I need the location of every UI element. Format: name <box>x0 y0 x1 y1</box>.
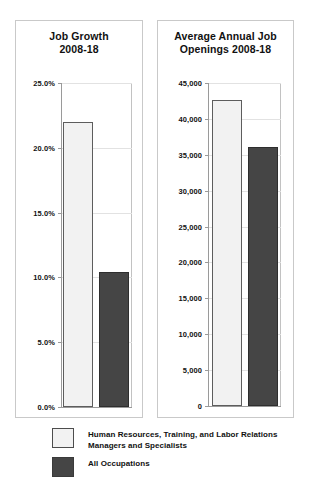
y-axis-tick-label: 25.0% <box>33 79 55 88</box>
chart-title-line1: Average Annual Job <box>174 30 277 42</box>
plot-frame-right <box>280 83 281 406</box>
chart-title-line2: 2008-18 <box>16 43 142 56</box>
legend-swatch-hr-managers <box>52 428 74 448</box>
chart-title-job-openings: Average Annual Job Openings 2008-18 <box>158 30 293 56</box>
y-axis-tick-label: 25,000 <box>178 222 202 231</box>
y-axis-tick <box>205 298 209 299</box>
chart-title-job-growth: Job Growth 2008-18 <box>16 30 142 56</box>
y-axis-tick-label: 20,000 <box>178 258 202 267</box>
y-axis-tick-label: 30,000 <box>178 186 202 195</box>
legend-item: All Occupations <box>52 457 302 477</box>
y-axis-tick <box>58 213 62 214</box>
y-axis-tick <box>205 406 209 407</box>
y-axis-tick-label: 35,000 <box>178 150 202 159</box>
plot-frame-right <box>131 83 132 407</box>
y-axis-tick <box>205 155 209 156</box>
y-axis-tick <box>205 191 209 192</box>
y-axis-tick <box>58 148 62 149</box>
y-axis-tick-label: 45,000 <box>178 79 202 88</box>
bar-all-occupations <box>248 147 278 406</box>
y-axis-tick-label: 20.0% <box>33 143 55 152</box>
chart-title-line1: Job Growth <box>49 30 108 42</box>
plot-area-job-growth: 25.0%20.0%15.0%10.0%5.0%0.0% <box>61 83 132 408</box>
legend-label-line1: All Occupations <box>88 459 150 468</box>
legend-label-all-occupations: All Occupations <box>88 457 150 469</box>
y-axis-tick-label: 0.0% <box>38 403 56 412</box>
y-axis-tick <box>58 342 62 343</box>
y-axis-tick-label: 10.0% <box>33 273 55 282</box>
y-axis-tick <box>58 407 62 408</box>
y-axis-tick <box>205 370 209 371</box>
y-axis-tick <box>58 277 62 278</box>
legend-swatch-all-occupations <box>52 457 74 477</box>
y-axis-tick <box>205 262 209 263</box>
y-axis-tick <box>205 227 209 228</box>
plot-area-job-openings: 45,00040,00035,00030,00025,00020,00015,0… <box>208 83 281 407</box>
chart-legend: Human Resources, Training, and Labor Rel… <box>52 428 302 483</box>
legend-item: Human Resources, Training, and Labor Rel… <box>52 428 302 451</box>
chart-panel-job-openings: Average Annual Job Openings 2008-18 45,0… <box>157 20 294 418</box>
legend-label-line2: Managers and Specialists <box>88 440 277 451</box>
chart-figure: Job Growth 2008-18 25.0%20.0%15.0%10.0%5… <box>0 0 309 488</box>
y-axis-tick-label: 0 <box>198 402 202 411</box>
gridline <box>62 83 132 84</box>
y-axis-tick-label: 40,000 <box>178 114 202 123</box>
y-axis-tick-label: 15.0% <box>33 208 55 217</box>
y-axis-tick <box>205 83 209 84</box>
y-axis-tick-label: 15,000 <box>178 294 202 303</box>
y-axis-tick-label: 5.0% <box>38 338 56 347</box>
bar-hr-managers <box>63 122 93 407</box>
y-axis-tick <box>205 119 209 120</box>
y-axis-tick-label: 10,000 <box>178 330 202 339</box>
gridline <box>209 83 281 84</box>
y-axis-tick <box>205 334 209 335</box>
chart-panel-job-growth: Job Growth 2008-18 25.0%20.0%15.0%10.0%5… <box>15 20 143 418</box>
y-axis-tick-label: 5,000 <box>183 366 202 375</box>
bar-hr-managers <box>212 100 242 406</box>
y-axis-tick <box>58 83 62 84</box>
legend-label-hr-managers: Human Resources, Training, and Labor Rel… <box>88 428 277 451</box>
bar-all-occupations <box>99 272 129 407</box>
chart-title-line2: Openings 2008-18 <box>158 43 293 56</box>
legend-label-line1: Human Resources, Training, and Labor Rel… <box>88 430 277 439</box>
